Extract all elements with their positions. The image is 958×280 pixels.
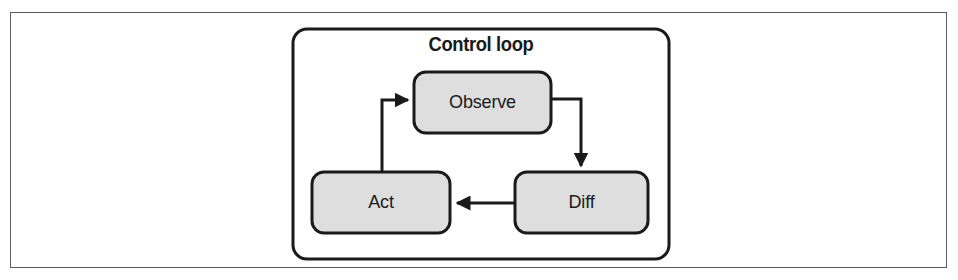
node-box-act[interactable]: [312, 172, 450, 233]
node-box-diff[interactable]: [515, 172, 648, 233]
control-loop-diagram: [0, 0, 958, 280]
node-box-observe[interactable]: [414, 72, 551, 133]
